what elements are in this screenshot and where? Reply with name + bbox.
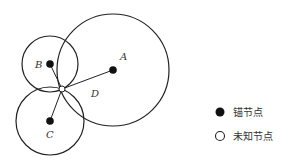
label-a: A	[119, 51, 127, 62]
legend-anchor-label: 锚节点	[233, 107, 263, 118]
open-circle-icon	[216, 132, 225, 141]
anchor-node-a	[109, 66, 117, 74]
line-b-d	[50, 64, 62, 89]
anchor-node-c	[46, 117, 54, 125]
label-d: D	[90, 88, 99, 99]
label-c: C	[46, 129, 54, 140]
unknown-node-d	[59, 86, 65, 92]
anchor-node-b	[46, 60, 54, 68]
filled-circle-icon	[216, 108, 225, 117]
legend-unknown-label: 未知节点	[233, 130, 273, 142]
line-a-d	[62, 70, 113, 89]
trilateration-diagram: A B C D 锚节点 未知节点	[0, 0, 289, 162]
legend: 锚节点 未知节点	[216, 107, 274, 142]
label-b: B	[34, 59, 42, 70]
line-c-d	[50, 89, 62, 121]
